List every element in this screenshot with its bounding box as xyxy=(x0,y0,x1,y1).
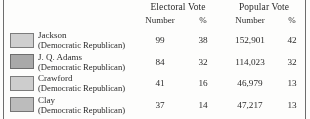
cell-popular-number: 114,023 xyxy=(222,57,278,68)
candidate-name: Jackson xyxy=(38,30,134,40)
candidate-label-block: Crawford(Democratic Republican) xyxy=(38,73,134,93)
cell-popular-percent: 42 xyxy=(280,35,304,46)
legend-color-swatch xyxy=(10,54,34,69)
election-results-table: Electoral Vote Popular Vote Number % Num… xyxy=(0,0,310,119)
column-group-popular-vote: Popular Vote xyxy=(225,2,303,13)
cell-electoral-number: 41 xyxy=(134,78,186,89)
legend-color-swatch xyxy=(10,33,34,48)
candidate-party: (Democratic Republican) xyxy=(38,40,134,50)
legend-color-swatch xyxy=(10,97,34,112)
cell-electoral-percent: 16 xyxy=(186,78,220,89)
table-row: Jackson(Democratic Republican)9938152,90… xyxy=(0,30,310,52)
candidate-name: Crawford xyxy=(38,73,134,83)
candidate-label-block: J. Q. Adams(Democratic Republican) xyxy=(38,52,134,72)
cell-popular-percent: 32 xyxy=(280,57,304,68)
column-header-electoral-percent: % xyxy=(186,15,220,26)
column-group-electoral-vote: Electoral Vote xyxy=(134,2,222,13)
cell-electoral-number: 84 xyxy=(134,57,186,68)
candidate-label-block: Clay(Democratic Republican) xyxy=(38,95,134,115)
column-header-popular-number: Number xyxy=(222,15,278,26)
cell-popular-percent: 13 xyxy=(280,78,304,89)
cell-electoral-number: 37 xyxy=(134,100,186,111)
candidate-party: (Democratic Republican) xyxy=(38,105,134,115)
cell-popular-percent: 13 xyxy=(280,100,304,111)
candidate-name: J. Q. Adams xyxy=(38,52,134,62)
cell-electoral-percent: 14 xyxy=(186,100,220,111)
candidate-name: Clay xyxy=(38,95,134,105)
cell-popular-number: 46,979 xyxy=(222,78,278,89)
cell-electoral-percent: 38 xyxy=(186,35,220,46)
cell-electoral-percent: 32 xyxy=(186,57,220,68)
legend-color-swatch xyxy=(10,76,34,91)
cell-popular-number: 152,901 xyxy=(222,35,278,46)
cell-popular-number: 47,217 xyxy=(222,100,278,111)
candidate-party: (Democratic Republican) xyxy=(38,62,134,72)
table-row: J. Q. Adams(Democratic Republican)843211… xyxy=(0,52,310,74)
cell-electoral-number: 99 xyxy=(134,35,186,46)
candidate-party: (Democratic Republican) xyxy=(38,83,134,93)
table-row: Clay(Democratic Republican)371447,21713 xyxy=(0,95,310,117)
column-header-electoral-number: Number xyxy=(134,15,186,26)
table-row: Crawford(Democratic Republican)411646,97… xyxy=(0,73,310,95)
candidate-label-block: Jackson(Democratic Republican) xyxy=(38,30,134,50)
column-header-popular-percent: % xyxy=(280,15,304,26)
table-header: Electoral Vote Popular Vote Number % Num… xyxy=(0,0,310,30)
table-body: Jackson(Democratic Republican)9938152,90… xyxy=(0,30,310,116)
